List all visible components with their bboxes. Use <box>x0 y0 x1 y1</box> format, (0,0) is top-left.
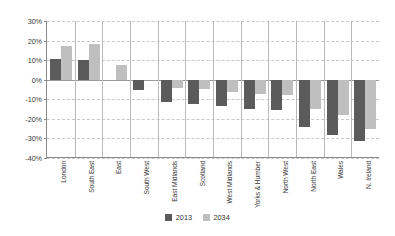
bar[interactable] <box>282 80 293 96</box>
bar-chart: 30%20%10%0%-10%-20%-30%-40% LondonSouth … <box>0 0 395 236</box>
x-axis-label: North East <box>310 161 317 192</box>
bar-group[interactable] <box>130 21 158 157</box>
x-axis-label: Wales <box>337 161 344 179</box>
gridline <box>47 158 379 159</box>
x-label-cell: South East <box>74 160 102 212</box>
bar[interactable] <box>244 80 255 109</box>
bar[interactable] <box>327 80 338 135</box>
bar-group[interactable] <box>158 21 186 157</box>
x-axis-label: North West <box>282 161 289 193</box>
legend-label: 2034 <box>214 213 230 222</box>
y-tick-label: 10% <box>28 56 42 65</box>
plot-area: 30%20%10%0%-10%-20%-30%-40% <box>46 21 379 158</box>
x-label-cell: Wales <box>324 160 352 212</box>
x-axis-label: South West <box>143 161 150 194</box>
legend-label: 2013 <box>176 213 192 222</box>
y-tick-mark <box>44 158 47 159</box>
bar-group[interactable] <box>75 21 103 157</box>
x-label-cell: North West <box>268 160 296 212</box>
bar[interactable] <box>271 80 282 110</box>
x-axis-label: N. Ireland <box>365 161 372 189</box>
x-label-cell: N. Ireland <box>351 160 379 212</box>
bar[interactable] <box>227 80 238 93</box>
bar[interactable] <box>50 59 61 80</box>
chart-legend: 20132034 <box>0 213 395 222</box>
bar[interactable] <box>199 80 210 90</box>
bar-group[interactable] <box>351 21 379 157</box>
y-tick-label: -20% <box>25 114 42 123</box>
bar[interactable] <box>354 80 365 142</box>
bar-group[interactable] <box>296 21 324 157</box>
x-label-cell: West Midlands <box>213 160 241 212</box>
y-tick-label: 30% <box>28 17 42 26</box>
bar[interactable] <box>133 80 144 91</box>
x-label-cell: Scotland <box>185 160 213 212</box>
x-label-cell: North East <box>296 160 324 212</box>
bar[interactable] <box>116 65 127 80</box>
x-axis-label: Yorks & Humber <box>254 161 261 208</box>
x-axis-label: East <box>115 161 122 174</box>
bar[interactable] <box>299 80 310 127</box>
x-axis-label: South East <box>88 161 95 193</box>
bar-group[interactable] <box>324 21 352 157</box>
bar-group[interactable] <box>185 21 213 157</box>
x-label-cell: South West <box>129 160 157 212</box>
legend-item[interactable]: 2013 <box>165 213 192 222</box>
bars-layer <box>47 21 379 157</box>
y-tick-label: 0% <box>32 75 42 84</box>
bar[interactable] <box>78 60 89 80</box>
bar[interactable] <box>255 80 266 95</box>
x-label-cell: East <box>102 160 130 212</box>
bar[interactable] <box>365 80 376 129</box>
bar[interactable] <box>216 80 227 106</box>
x-axis-labels: LondonSouth EastEastSouth WestEast Midla… <box>46 160 379 212</box>
bar-group[interactable] <box>241 21 269 157</box>
x-axis-label: East Midlands <box>171 161 178 202</box>
legend-swatch-icon <box>203 214 210 221</box>
x-label-cell: London <box>46 160 74 212</box>
bar-group[interactable] <box>213 21 241 157</box>
x-axis-label: London <box>60 161 67 183</box>
bar[interactable] <box>338 80 349 115</box>
y-tick-label: 20% <box>28 36 42 45</box>
bar[interactable] <box>89 44 100 80</box>
bar[interactable] <box>61 46 72 79</box>
bar[interactable] <box>161 80 172 103</box>
y-tick-label: -30% <box>25 134 42 143</box>
x-axis-label: Scotland <box>199 161 206 186</box>
legend-item[interactable]: 2034 <box>203 213 230 222</box>
bar[interactable] <box>310 80 321 109</box>
bar-group[interactable] <box>102 21 130 157</box>
y-tick-label: -10% <box>25 95 42 104</box>
y-tick-label: -40% <box>25 154 42 163</box>
x-axis-label: West Midlands <box>226 161 233 203</box>
legend-swatch-icon <box>165 214 172 221</box>
bar-group[interactable] <box>268 21 296 157</box>
bar[interactable] <box>188 80 199 104</box>
x-label-cell: East Midlands <box>157 160 185 212</box>
bar-group[interactable] <box>47 21 75 157</box>
bar[interactable] <box>172 80 183 88</box>
x-label-cell: Yorks & Humber <box>240 160 268 212</box>
